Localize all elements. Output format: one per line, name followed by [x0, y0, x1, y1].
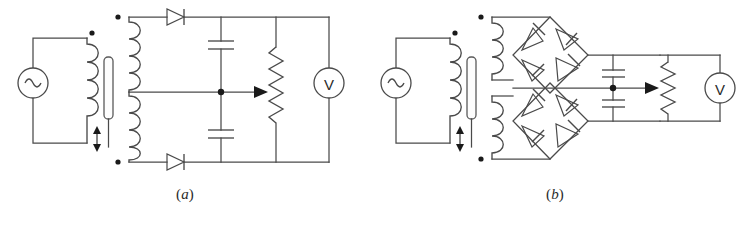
- bridge-lower-diode-left-bottom: [522, 126, 544, 147]
- polarity-dot-secondary-bottom: [115, 159, 120, 164]
- diode-bottom-a: [167, 154, 184, 170]
- caption-a-close: ): [189, 186, 194, 202]
- center-tap-junction-a: [218, 89, 224, 95]
- bridge-upper-diode-right-bottom: [556, 54, 580, 81]
- polarity-dot-secondary-lower: [478, 156, 483, 161]
- polarity-dot-primary: [89, 30, 94, 35]
- pot-zigzag: [269, 47, 283, 123]
- primary-winding-b: [450, 30, 461, 143]
- ac-source-wire-bottom: [33, 98, 87, 143]
- ac-source-wire-bottom: [396, 98, 450, 143]
- polarity-dot-primary: [452, 30, 457, 35]
- core-adjust-arrow: [456, 126, 464, 152]
- transformer-core-a: [93, 57, 113, 152]
- bridge-lower-frame: [513, 83, 588, 159]
- output-potentiometer-b: [645, 55, 675, 121]
- ac-source-wire-top: [396, 38, 450, 68]
- voltmeter-label: V: [715, 81, 725, 98]
- diode-top-a: [167, 9, 184, 25]
- caption-b-letter: b: [551, 186, 559, 202]
- bridge-upper-diode-left-bottom: [522, 60, 544, 81]
- bridge-lower-diode-left-top: [522, 89, 545, 116]
- filter-capacitor-upper-b: [602, 55, 625, 88]
- primary-winding-a: [87, 30, 98, 143]
- caption-b: (b): [370, 186, 740, 203]
- secondary-coil-lower: [129, 92, 140, 162]
- secondary-coil-upper: [129, 17, 140, 92]
- adjust-arrow-down: [456, 144, 464, 152]
- secondary-winding-lower-b: [478, 96, 550, 162]
- voltmeter-group-a: V: [314, 17, 344, 162]
- adjust-arrow-up: [93, 126, 101, 134]
- bridge-upper-frame: [513, 17, 588, 93]
- polarity-dot-secondary-top: [115, 14, 120, 19]
- pot-wiper-arrow: [645, 82, 659, 94]
- secondary-upper-coil: [492, 17, 503, 80]
- d7-triangle: [522, 126, 544, 147]
- d1-triangle: [522, 28, 543, 50]
- ac-source-group-b: [381, 38, 450, 143]
- filter-capacitor-lower-a: [208, 92, 234, 162]
- filter-capacitor-upper-a: [208, 17, 234, 92]
- pot-wiper-arrow: [254, 86, 268, 98]
- circuit-panel-b: V (b): [370, 0, 740, 228]
- transformer-core-b: [456, 57, 476, 152]
- adjust-arrow-up: [456, 126, 464, 134]
- core-bar: [104, 57, 113, 119]
- secondary-lower-coil: [492, 96, 503, 159]
- bridge-lower-diode-right-bottom: [556, 120, 580, 147]
- bridge-rectifier-upper-b: [513, 17, 588, 93]
- core-bar: [467, 57, 476, 119]
- bridge-upper-diode-left-top: [522, 23, 545, 50]
- d3-triangle: [522, 60, 544, 81]
- adjust-arrow-down: [93, 144, 101, 152]
- caption-a: (a): [0, 186, 370, 203]
- d6-triangle: [556, 95, 578, 116]
- voltmeter-group-b: V: [705, 55, 735, 121]
- output-potentiometer-a: [254, 17, 283, 162]
- d2-triangle: [556, 29, 578, 50]
- ac-source-wire-top: [33, 38, 87, 68]
- figure-root: V (a): [0, 0, 740, 228]
- pot-zigzag: [661, 62, 675, 114]
- center-tap-junction-b: [610, 85, 616, 91]
- bridge-rectifier-lower-b: [513, 83, 588, 159]
- bridge-upper-diode-right-top: [556, 29, 578, 50]
- caption-b-close: ): [559, 186, 564, 202]
- caption-a-letter: a: [181, 186, 189, 202]
- ac-source-group-a: [18, 38, 87, 143]
- bridge-lower-diode-right-top: [556, 95, 578, 116]
- d5-triangle: [522, 94, 543, 116]
- diode-bottom-triangle: [167, 154, 184, 170]
- circuit-panel-a: V (a): [0, 0, 370, 228]
- secondary-winding-upper-b: [478, 14, 550, 80]
- secondary-winding-a: [115, 14, 140, 164]
- voltmeter-label: V: [324, 76, 334, 93]
- polarity-dot-secondary-upper: [478, 14, 483, 19]
- diode-top-triangle: [167, 9, 184, 25]
- filter-capacitor-lower-b: [602, 88, 625, 121]
- core-adjust-arrow: [93, 126, 101, 152]
